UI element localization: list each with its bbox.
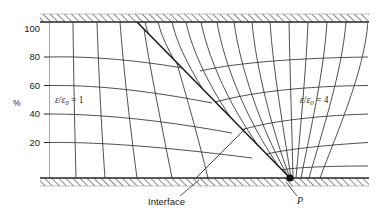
field-map-canvas	[0, 0, 383, 215]
region-label-right: ε/ε0 = 4	[300, 96, 329, 107]
interface-leader-ray	[196, 128, 246, 178]
interface-annotation-label: Interface	[148, 197, 185, 207]
y-tick-label-20: 20	[14, 138, 40, 148]
bottom-conductor-band	[40, 178, 369, 186]
y-axis-unit-label: %	[13, 99, 21, 108]
interface-line	[137, 22, 290, 178]
y-axis-ticks	[44, 57, 49, 143]
y-tick-label-100: 100	[14, 24, 40, 34]
right-region-field-map	[145, 22, 368, 178]
y-tick-label-40: 40	[14, 109, 40, 119]
point-p-label: P	[297, 196, 303, 206]
flux-lines-right	[145, 22, 368, 178]
field-map-figure: 100 80 60 40 20 % ε/ε0 = 1 ε/ε0 = 4 Inte…	[0, 0, 383, 215]
point-p-marker	[286, 174, 293, 181]
y-tick-label-60: 60	[14, 81, 40, 91]
region-label-left: ε/ε0 = 1	[55, 96, 84, 107]
y-tick-label-80: 80	[14, 52, 40, 62]
top-conductor-band	[40, 14, 369, 22]
